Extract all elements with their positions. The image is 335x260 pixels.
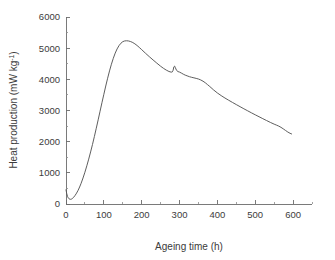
x-tick-label: 100: [96, 209, 112, 220]
y-tick-label: 6000: [39, 11, 60, 22]
y-tick-label: 0: [55, 198, 60, 209]
x-tick-label: 600: [285, 209, 301, 220]
y-tick-label: 3000: [39, 105, 60, 116]
x-tick-label: 500: [247, 209, 263, 220]
x-tick-label: 300: [172, 209, 188, 220]
y-tick-label: 2000: [39, 136, 60, 147]
x-axis-major-ticks: [66, 200, 293, 204]
chart-figure: 0100020003000400050006000 01002003004005…: [0, 0, 335, 260]
y-axis-group: 0100020003000400050006000: [39, 11, 70, 209]
y-axis-title: Heat production (mW kg-1): [8, 51, 19, 168]
x-tick-label: 400: [209, 209, 225, 220]
y-tick-label: 5000: [39, 43, 60, 54]
y-axis-title-main: Heat production (mW kg: [8, 61, 19, 169]
x-axis-tick-labels: 0100200300400500600: [63, 209, 301, 220]
x-tick-label: 200: [134, 209, 150, 220]
x-axis-title: Ageing time (h): [155, 241, 223, 252]
y-axis-title-suffix: ): [8, 51, 19, 54]
y-tick-label: 1000: [39, 167, 60, 178]
heat-production-line-chart: 0100020003000400050006000 01002003004005…: [0, 0, 335, 260]
data-series-heat-production: [66, 41, 292, 200]
y-axis-major-ticks: [66, 17, 70, 204]
x-axis-group: 0100200300400500600: [63, 200, 312, 220]
svg-text:Heat production (mW kg-1): Heat production (mW kg-1): [8, 51, 19, 168]
y-tick-label: 4000: [39, 74, 60, 85]
x-tick-label: 0: [63, 209, 68, 220]
y-axis-tick-labels: 0100020003000400050006000: [39, 11, 60, 209]
